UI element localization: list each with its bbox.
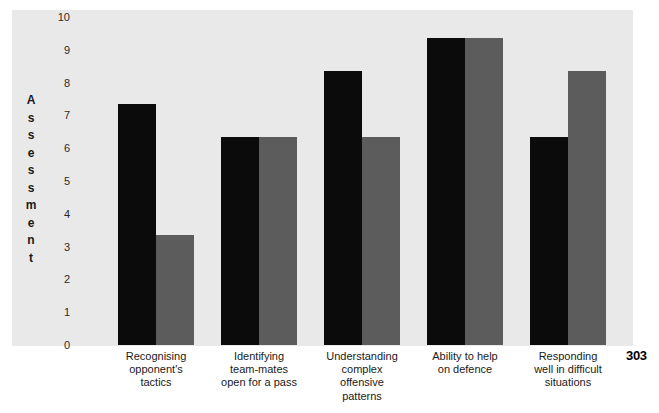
bar: [118, 104, 156, 345]
bar: [221, 137, 259, 345]
bar: [156, 235, 194, 345]
x-axis-category-label-line: tactics: [96, 376, 216, 389]
x-axis-category-label-line: well in difficult: [508, 363, 628, 376]
x-axis-category-label-line: team-mates: [199, 363, 319, 376]
x-axis-category-label-line: Responding: [508, 350, 628, 363]
x-axis-category-label: Respondingwell in difficultsituations: [508, 350, 628, 390]
page-number: 303: [626, 348, 647, 363]
x-axis-category-label-line: Ability to help: [405, 350, 525, 363]
bar: [530, 137, 568, 345]
bar: [427, 38, 465, 345]
x-axis-category-label-line: offensive: [302, 376, 422, 389]
x-axis-category-label: Identifyingteam-matesopen for a pass: [199, 350, 319, 390]
x-axis-category-label-line: open for a pass: [199, 376, 319, 389]
bar: [568, 71, 606, 345]
bar: [362, 137, 400, 345]
x-axis-category-label-line: Understanding: [302, 350, 422, 363]
x-axis-category-label-line: patterns: [302, 390, 422, 403]
x-axis-category-label: Recognisingopponent'stactics: [96, 350, 216, 390]
x-axis-category-label-line: Recognising: [96, 350, 216, 363]
bar: [259, 137, 297, 345]
bar: [324, 71, 362, 345]
x-axis-category-label-line: opponent's: [96, 363, 216, 376]
x-axis-category-label-line: Identifying: [199, 350, 319, 363]
x-axis-category-label-line: on defence: [405, 363, 525, 376]
x-axis-category-label: Ability to helpon defence: [405, 350, 525, 376]
x-axis-category-label-line: complex: [302, 363, 422, 376]
bar-chart: Assessment 109876543210 Recognisingoppon…: [0, 0, 659, 413]
bar: [465, 38, 503, 345]
x-axis-category-label-line: situations: [508, 376, 628, 389]
x-axis-category-label: Understandingcomplexoffensivepatterns: [302, 350, 422, 403]
